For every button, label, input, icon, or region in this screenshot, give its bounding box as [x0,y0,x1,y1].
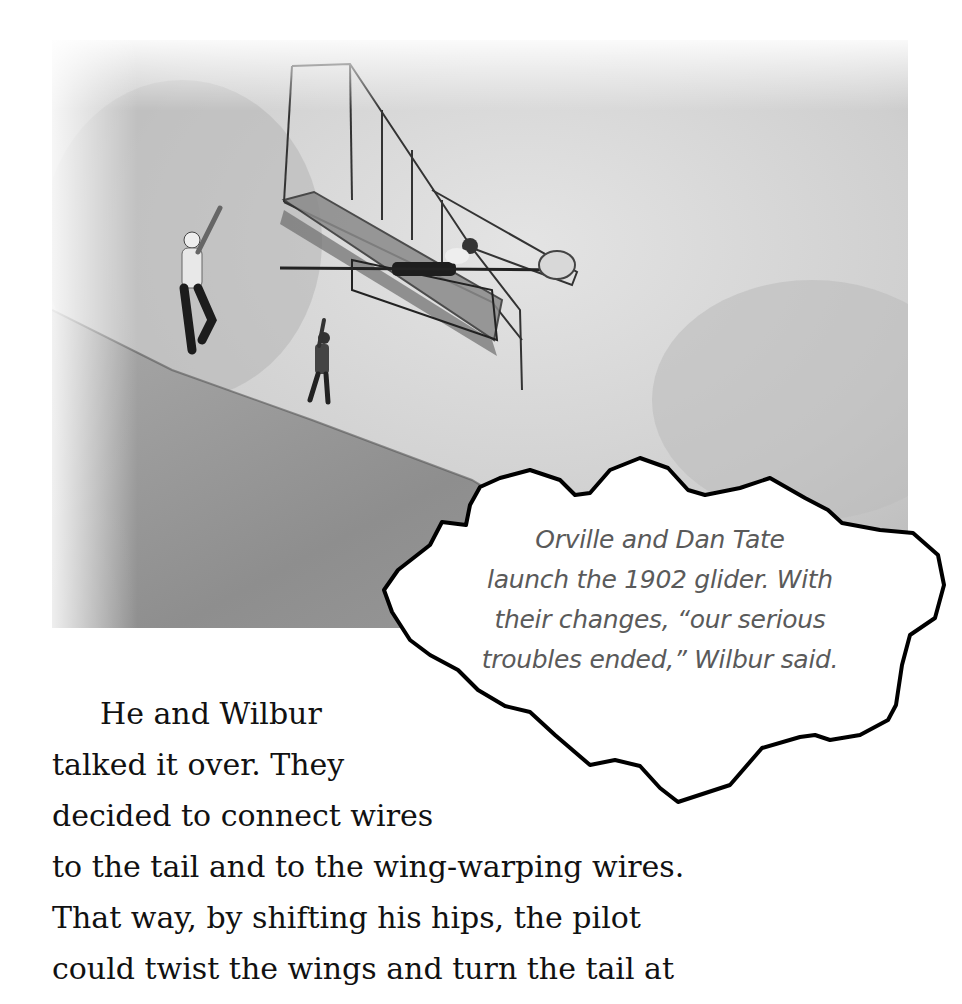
caption-line: Orville and Dan Tate [440,520,880,560]
body-line: He and Wilbur [52,688,684,739]
body-line: talked it over. They [52,739,684,790]
caption-line: launch the 1902 glider. With [440,560,880,600]
body-line: decided to connect wires [52,790,684,841]
body-line: That way, by shifting his hips, the pilo… [52,892,684,943]
body-line: could twist the wings and turn the tail … [52,943,684,994]
book-page: Orville and Dan Tate launch the 1902 gli… [0,0,962,1004]
caption-line: troubles ended,” Wilbur said. [440,640,880,680]
body-line: to the tail and to the wing-warping wire… [52,841,684,892]
body-paragraph: He and Wilbur talked it over. They decid… [52,688,684,994]
photo-caption: Orville and Dan Tate launch the 1902 gli… [440,520,880,680]
caption-line: their changes, “our serious [440,600,880,640]
